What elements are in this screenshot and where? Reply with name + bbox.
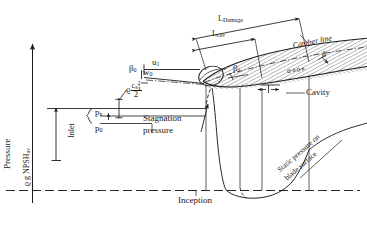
incidence-label: i [138,84,141,93]
u1-label: u1 [152,58,160,67]
p0-label: p0 [95,124,103,133]
stagnation-pressure-label: Stagnation pressure [143,114,182,135]
pressure-drop-branch [212,88,226,190]
w0-line [144,78,204,84]
npsh-dimension [52,108,62,161]
blade-profile [196,38,367,89]
cavity-label: Cavity [306,88,330,97]
inception-label: Inception [178,196,212,205]
l-damage-label: LDamage [218,15,243,23]
w0-label: w0 [143,68,153,77]
figure-canvas: Pressure ϱ g NPSHav Inlet px p0 ϱcs22 β0… [0,0,367,235]
pressure-axis-label: Pressure [3,139,12,170]
npsh-label: ϱ g NPSHav [23,148,31,186]
beta1-label: β1 [233,64,241,73]
px-label: px [95,108,103,117]
l-damage-left-ext [196,39,206,71]
beta0-label: β0 [129,64,137,73]
l-cav-label: Lcav [212,30,225,38]
delta-label: δ [322,50,326,59]
px-level-lines [47,109,206,124]
cavity-callout [258,85,305,93]
stagnation-line-1: Stagnation [143,114,182,123]
stagnation-rise-dashed [206,88,212,109]
inlet-label: Inlet [68,123,76,138]
static-pressure-curve [206,88,367,198]
stagnation-line-2: pressure [143,126,182,135]
dynamic-head-dimension [116,90,127,118]
l-cav-arrow-line [196,39,255,50]
inlet-bracket [87,109,92,124]
